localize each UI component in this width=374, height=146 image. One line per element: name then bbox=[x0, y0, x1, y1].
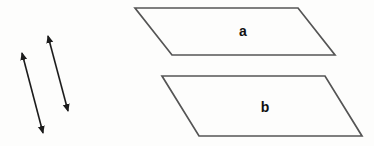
parallel-line-arrow-left bbox=[22, 53, 43, 133]
parallel-line-arrow-right bbox=[48, 36, 68, 111]
parallel-planes-diagram: a b bbox=[0, 0, 374, 146]
parallel-planes-figure: a b bbox=[0, 0, 374, 146]
plane-b-label: b bbox=[261, 99, 270, 115]
plane-a-label: a bbox=[239, 23, 247, 39]
plane-a-outline bbox=[135, 8, 335, 55]
